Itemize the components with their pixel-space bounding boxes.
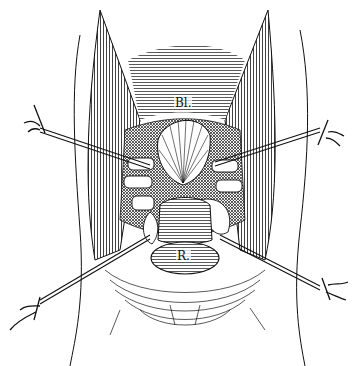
perineal-folds [105,270,265,335]
illustration: Bl. R. [0,0,353,366]
engraving-art [0,0,353,366]
rectum-label: R. [176,250,191,262]
bladder-label: Bl. [174,97,192,109]
